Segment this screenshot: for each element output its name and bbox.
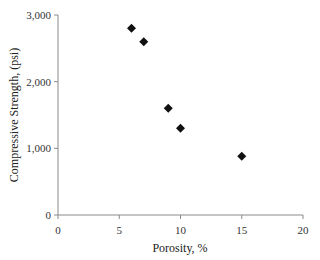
- data-point: [176, 124, 185, 133]
- data-points: [127, 24, 246, 161]
- data-point: [237, 152, 246, 161]
- y-tick-label: 3,000: [26, 9, 51, 21]
- x-tick-label: 10: [175, 224, 187, 236]
- x-tick-label: 0: [55, 224, 61, 236]
- y-tick-label: 0: [46, 209, 52, 221]
- y-tick-label: 2,000: [26, 76, 51, 88]
- scatter-chart: 05101520 01,0002,0003,000 Porosity, % Co…: [0, 0, 320, 260]
- x-ticks: 05101520: [55, 215, 309, 236]
- axes: [58, 15, 303, 215]
- x-tick-label: 5: [117, 224, 123, 236]
- y-axis-title: Compressive Strength, (psi): [7, 48, 21, 182]
- x-tick-label: 15: [236, 224, 248, 236]
- x-tick-label: 20: [298, 224, 310, 236]
- data-point: [164, 104, 173, 113]
- data-point: [127, 24, 136, 33]
- y-ticks: 01,0002,0003,000: [26, 9, 58, 221]
- y-tick-label: 1,000: [26, 142, 51, 154]
- data-point: [139, 37, 148, 46]
- x-axis-title: Porosity, %: [152, 241, 207, 255]
